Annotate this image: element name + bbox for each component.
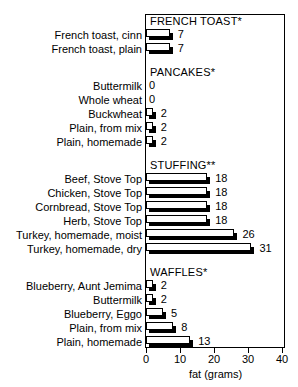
chart-bar-row: Plain, from mix8 <box>0 321 298 335</box>
bar-body <box>146 201 207 209</box>
bar-body <box>146 308 163 316</box>
chart-bar-row: Cornbread, Stove Top18 <box>0 200 298 214</box>
bar-body <box>146 229 234 237</box>
bar-body <box>146 108 153 116</box>
bar-body <box>146 173 207 181</box>
bar-category-label: Plain, homemade <box>0 135 142 149</box>
bar-category-label: Buttermilk <box>0 79 142 93</box>
bar-category-label: Whole wheat <box>0 93 142 107</box>
chart-section-header: WAFFLES* <box>0 265 298 279</box>
chart-bar-row: Blueberry, Aunt Jemima2 <box>0 279 298 293</box>
bar-body <box>146 280 153 288</box>
chart-bar-row: Buttermilk2 <box>0 293 298 307</box>
bar-value-label: 2 <box>161 279 167 293</box>
bar-body <box>146 136 153 144</box>
chart-bar-row: Buttermilk0 <box>0 79 298 93</box>
bar-value-label: 8 <box>181 321 187 335</box>
bar-value-label: 0 <box>149 93 155 107</box>
bar-value-label: 13 <box>198 335 210 349</box>
x-axis-tick-label: 40 <box>267 352 297 366</box>
bar-body <box>146 29 170 37</box>
section-header-label: FRENCH TOAST* <box>150 14 242 28</box>
x-axis-tick-label: 0 <box>131 352 161 366</box>
chart-section-header: PANCAKES* <box>0 65 298 79</box>
bar-value-label: 18 <box>215 200 227 214</box>
bar-value-label: 18 <box>215 172 227 186</box>
bar-category-label: Plain, homemade <box>0 335 142 349</box>
chart-bar-row: Beef, Stove Top18 <box>0 172 298 186</box>
chart-bar-row: Plain, homemade13 <box>0 335 298 349</box>
x-axis-title: fat (grams) <box>145 368 286 380</box>
bar-value-label: 7 <box>178 42 184 56</box>
bar-category-label: French toast, plain <box>0 42 142 56</box>
section-header-label: PANCAKES* <box>150 65 215 79</box>
bar-category-label: Buttermilk <box>0 293 142 307</box>
bar-category-label: Buckwheat <box>0 107 142 121</box>
chart-section-header: FRENCH TOAST* <box>0 14 298 28</box>
bar-value-label: 0 <box>149 79 155 93</box>
bar-category-label: Plain, from mix <box>0 121 142 135</box>
bar-value-label: 2 <box>161 121 167 135</box>
chart-bar-row: Blueberry, Eggo5 <box>0 307 298 321</box>
chart-bar-row: Turkey, homemade, dry31 <box>0 242 298 256</box>
chart-bar-row: French toast, cinn7 <box>0 28 298 42</box>
bar-value-label: 18 <box>215 186 227 200</box>
cut-off-figure-title <box>0 0 298 3</box>
chart-bar-row: Herb, Stove Top18 <box>0 214 298 228</box>
section-header-label: WAFFLES* <box>150 265 207 279</box>
bar-body <box>146 187 207 195</box>
bar-body <box>146 122 153 130</box>
x-axis-tick-label: 20 <box>199 352 229 366</box>
bar-category-label: Blueberry, Aunt Jemima <box>0 279 142 293</box>
bar-body <box>146 215 207 223</box>
bar-value-label: 26 <box>242 228 254 242</box>
bar-body <box>146 294 153 302</box>
bar-value-label: 5 <box>171 307 177 321</box>
chart-bar-row: Plain, homemade2 <box>0 135 298 149</box>
chart-bar-row: Turkey, homemade, moist26 <box>0 228 298 242</box>
chart-section-header: STUFFING** <box>0 158 298 172</box>
bar-body <box>146 243 251 251</box>
chart-bar-row: Whole wheat0 <box>0 93 298 107</box>
bar-value-label: 2 <box>161 107 167 121</box>
bar-category-label: Turkey, homemade, moist <box>0 228 142 242</box>
bar-value-label: 7 <box>178 28 184 42</box>
x-axis-tick-label: 30 <box>233 352 263 366</box>
bar-category-label: Chicken, Stove Top <box>0 186 142 200</box>
bar-body <box>146 322 173 330</box>
x-axis-tick-labels: 010203040 <box>0 352 298 366</box>
bar-value-label: 18 <box>215 214 227 228</box>
chart-rows: FRENCH TOAST*French toast, cinn7French t… <box>0 14 298 348</box>
bar-category-label: French toast, cinn <box>0 28 142 42</box>
bar-category-label: Cornbread, Stove Top <box>0 200 142 214</box>
bar-category-label: Herb, Stove Top <box>0 214 142 228</box>
section-header-label: STUFFING** <box>150 158 216 172</box>
bar-category-label: Plain, from mix <box>0 321 142 335</box>
bar-value-label: 31 <box>259 242 271 256</box>
x-axis-tick-label: 10 <box>165 352 195 366</box>
chart-bar-row: French toast, plain7 <box>0 42 298 56</box>
bar-body <box>146 43 170 51</box>
chart-bar-row: Buckwheat2 <box>0 107 298 121</box>
bar-value-label: 2 <box>161 135 167 149</box>
bar-category-label: Blueberry, Eggo <box>0 307 142 321</box>
bar-category-label: Beef, Stove Top <box>0 172 142 186</box>
bar-category-label: Turkey, homemade, dry <box>0 242 142 256</box>
chart-bar-row: Chicken, Stove Top18 <box>0 186 298 200</box>
chart-bar-row: Plain, from mix2 <box>0 121 298 135</box>
bar-value-label: 2 <box>161 293 167 307</box>
bar-body <box>146 336 190 344</box>
